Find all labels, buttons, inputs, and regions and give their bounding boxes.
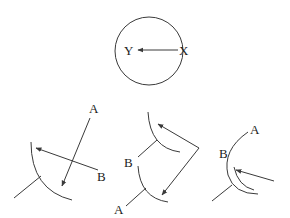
label-x: X [179, 43, 189, 58]
ray-a [62, 118, 90, 186]
left-panel: A B [14, 101, 106, 200]
label-a: A [114, 202, 124, 217]
label-a: A [89, 101, 99, 116]
ray-to-top-mirror [158, 124, 199, 148]
incident-ray [236, 170, 274, 181]
label-b: B [219, 146, 228, 161]
normal-line-bottom [126, 188, 146, 206]
middle-panel: B A [114, 112, 199, 217]
right-panel: A B [212, 122, 274, 201]
mirror-arc-top [148, 112, 180, 152]
label-b: B [124, 155, 133, 170]
mirror-arc-outer [227, 132, 258, 194]
mirror-arc-bottom [138, 166, 168, 202]
ray-b [36, 148, 98, 170]
normal-line [212, 185, 232, 201]
normal-line-top [138, 140, 157, 157]
top-circle-figure: Y X [115, 17, 189, 85]
label-a: A [250, 122, 260, 137]
normal-line [14, 176, 41, 198]
diagram-canvas: Y X A B B A A B [0, 0, 290, 218]
label-b: B [97, 169, 106, 184]
ray-to-bottom-mirror [162, 148, 199, 195]
mirror-arc [31, 142, 72, 200]
label-y: Y [124, 43, 134, 58]
